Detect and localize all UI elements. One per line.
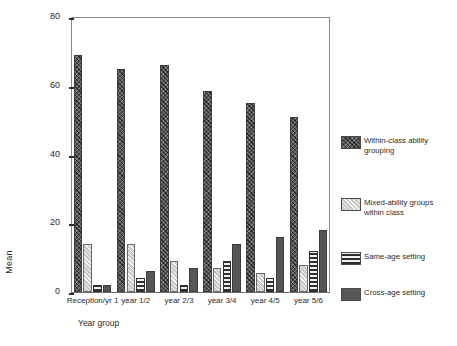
legend-label: Within-class abilitygrouping: [364, 136, 428, 155]
bar-group: [71, 17, 114, 292]
legend-swatch: [341, 198, 361, 211]
y-axis-tick-label: 80: [38, 12, 60, 21]
bar[interactable]: [160, 65, 169, 292]
bar-chart-figure: Mean 020406080 Reception/yr 1year 1/2yea…: [0, 0, 457, 346]
legend-item[interactable]: Within-class abilitygrouping: [341, 136, 428, 155]
bar-group: [287, 17, 330, 292]
y-axis-tick-labels: 020406080: [36, 0, 60, 346]
bar[interactable]: [246, 103, 255, 292]
bar[interactable]: [83, 244, 92, 292]
bars-container: [71, 17, 330, 292]
bar[interactable]: [103, 285, 112, 292]
bar[interactable]: [117, 69, 126, 292]
bar-group: [157, 17, 200, 292]
y-axis-tick-label: 20: [38, 218, 60, 227]
bar[interactable]: [266, 278, 275, 292]
bar[interactable]: [319, 230, 328, 292]
legend-swatch: [341, 136, 361, 149]
bar[interactable]: [213, 268, 222, 292]
x-axis-title: Year group: [78, 318, 119, 328]
legend-swatch: [341, 288, 361, 301]
bar[interactable]: [146, 271, 155, 292]
legend-label: Cross-age setting: [364, 288, 425, 298]
legend-label: Mixed-ability groupswithin class: [364, 198, 433, 217]
y-axis-tick-label: 0: [38, 287, 60, 296]
legend-item[interactable]: Mixed-ability groupswithin class: [341, 198, 433, 217]
bar-group: [114, 17, 157, 292]
bar[interactable]: [256, 273, 265, 292]
x-axis-tick-labels: Reception/yr 1year 1/2year 2/3year 3/4ye…: [71, 296, 330, 310]
bar[interactable]: [309, 251, 318, 292]
bar[interactable]: [127, 244, 136, 292]
x-axis-tick-label: year 5/6: [279, 296, 338, 306]
y-axis-tick-label: 40: [38, 150, 60, 159]
bar[interactable]: [223, 261, 232, 292]
bar[interactable]: [290, 117, 299, 292]
legend-label: Same-age setting: [364, 252, 425, 262]
bar[interactable]: [276, 237, 285, 292]
legend-swatch: [341, 252, 361, 265]
bar-group: [201, 17, 244, 292]
bar[interactable]: [232, 244, 241, 292]
bar[interactable]: [180, 285, 189, 292]
bar[interactable]: [203, 91, 212, 292]
y-axis-tick-label: 60: [38, 81, 60, 90]
bar-group: [244, 17, 287, 292]
y-axis-tick-mark: [69, 293, 74, 295]
bar[interactable]: [93, 285, 102, 292]
y-axis-title: Mean: [4, 232, 14, 292]
bar[interactable]: [136, 278, 145, 292]
bar[interactable]: [74, 55, 83, 292]
bar[interactable]: [170, 261, 179, 292]
bar[interactable]: [189, 268, 198, 292]
legend-item[interactable]: Cross-age setting: [341, 288, 425, 301]
x-axis-baseline: [71, 292, 330, 293]
legend-item[interactable]: Same-age setting: [341, 252, 425, 265]
bar[interactable]: [299, 265, 308, 293]
